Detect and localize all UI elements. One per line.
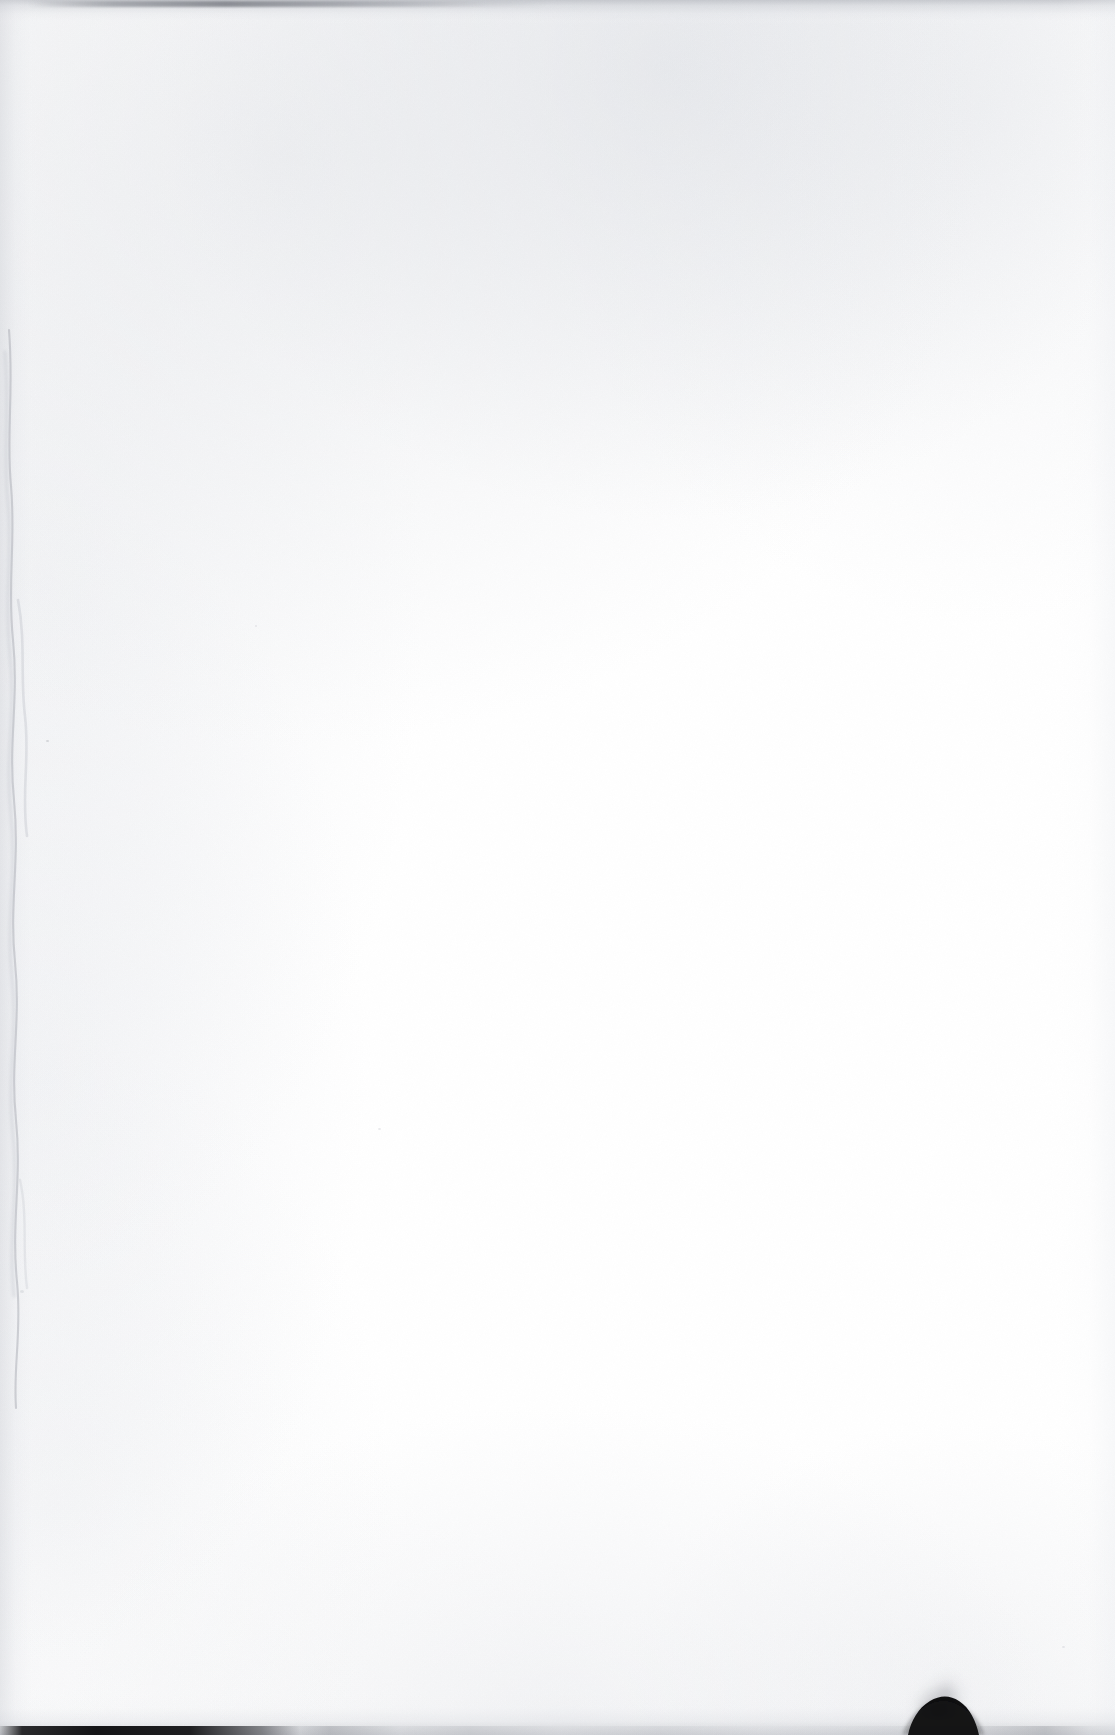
scanned-page <box>0 0 1115 1735</box>
top-edge-dark-streak <box>28 1 548 7</box>
page-content-area <box>96 120 1016 1600</box>
dust-speck <box>255 625 257 627</box>
dust-speck <box>20 1290 24 1293</box>
dust-speck <box>1062 1646 1065 1648</box>
dust-speck <box>46 740 49 742</box>
left-page-edge-curl <box>0 0 60 1735</box>
right-edge-falloff <box>1059 0 1115 1735</box>
dust-speck <box>378 1128 381 1130</box>
thumb-shadow <box>890 1675 1010 1735</box>
